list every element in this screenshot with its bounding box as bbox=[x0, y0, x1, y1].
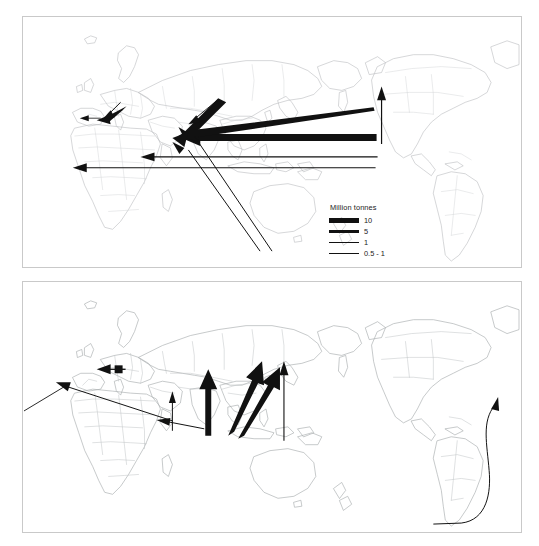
legend-label-05: 0.5 - 1 bbox=[364, 249, 385, 258]
legend-label-10: 10 bbox=[364, 216, 372, 225]
legend-item-1: 1 bbox=[329, 237, 415, 248]
flow-arrow-seasia-to-japan-head bbox=[279, 361, 288, 375]
flow-arrow-seasia-short-vertical-head bbox=[169, 391, 176, 403]
map-landmasses-bottom bbox=[71, 301, 519, 526]
flow-arrow-to-central-europe-2 bbox=[115, 365, 123, 373]
world-map-panel-bottom bbox=[22, 281, 522, 533]
world-map-bottom-svg bbox=[23, 282, 521, 532]
legend-swatch-05 bbox=[329, 253, 359, 254]
figure-root: Million tonnes 10 5 1 0.5 - 1 bbox=[0, 0, 539, 546]
world-map-panel-top: Million tonnes 10 5 1 0.5 - 1 bbox=[22, 16, 522, 268]
legend-swatch-10 bbox=[329, 218, 359, 224]
flow-arrow-namerica-vertical-head bbox=[377, 86, 386, 100]
legend-swatch-1 bbox=[329, 242, 359, 244]
legend-item-05: 0.5 - 1 bbox=[329, 248, 415, 259]
flow-arrow-seasia-to-india bbox=[168, 422, 204, 429]
legend-label-5: 5 bbox=[364, 227, 368, 236]
flow-arrow-samerica-curved-head bbox=[491, 397, 499, 411]
flow-arrow-1mt-a-head bbox=[141, 152, 155, 161]
flow-arrow-europe-c-head bbox=[80, 115, 89, 121]
flow-arrow-seasia-to-europe-head bbox=[56, 382, 71, 391]
map-country-borders-top bbox=[75, 65, 475, 236]
legend-title: Million tonnes bbox=[330, 203, 415, 212]
flow-arrow-oceania-to-china bbox=[188, 150, 260, 251]
flow-arrow-left-edge-inflow bbox=[24, 385, 67, 411]
flow-arrow-samerica-curved bbox=[433, 405, 495, 524]
legend-label-1: 1 bbox=[364, 238, 368, 247]
legend-item-10: 10 bbox=[329, 215, 415, 226]
world-map-top-svg bbox=[23, 17, 521, 267]
legend-item-5: 5 bbox=[329, 226, 415, 237]
map-country-borders-bottom bbox=[75, 330, 475, 501]
flow-arrow-to-central-europe-head bbox=[97, 364, 111, 374]
map-landmasses-top bbox=[71, 36, 519, 261]
legend: Million tonnes 10 5 1 0.5 - 1 bbox=[329, 203, 415, 265]
legend-swatch-5 bbox=[329, 230, 359, 233]
flow-arrow-indonesia-to-china-10mt bbox=[199, 369, 217, 435]
